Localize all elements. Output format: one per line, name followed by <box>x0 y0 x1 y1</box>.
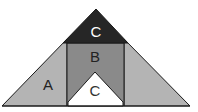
diagram: C B A C <box>0 0 198 112</box>
triangle-figure: C B A C <box>0 0 198 112</box>
region-a-left <box>2 39 67 106</box>
region-a-right <box>124 39 190 106</box>
label-c-top: C <box>91 23 102 40</box>
label-c-bottom: C <box>90 82 101 99</box>
label-b: B <box>90 48 100 65</box>
label-a: A <box>43 76 53 93</box>
